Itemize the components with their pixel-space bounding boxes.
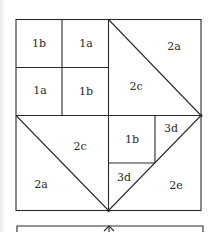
vertex-dot-bottom [107,209,110,212]
label-2e: 2e [169,179,183,192]
vertex-dot-right [200,114,203,117]
quilt-diagram: 1b 1a 1a 1b 2a 2c 2c 2a 1b 3d 3d 2e [0,0,218,232]
label-1a-top: 1a [79,37,93,50]
label-2a-bottom-left: 2a [34,178,48,191]
label-1a-left: 1a [33,84,47,97]
label-3d-lower: 3d [117,171,131,184]
label-3d-upper: 3d [164,122,178,135]
label-1b-center: 1b [79,85,93,98]
bottom-left-diagonal [16,116,109,211]
label-2c-bottom-left: 2c [73,140,86,153]
label-2a-top-right: 2a [167,40,181,53]
label-1b-small-square: 1b [125,133,139,146]
top-right-diagonal [109,20,202,116]
label-2c-top-right: 2c [129,80,142,93]
label-1b-top-left: 1b [32,37,46,50]
